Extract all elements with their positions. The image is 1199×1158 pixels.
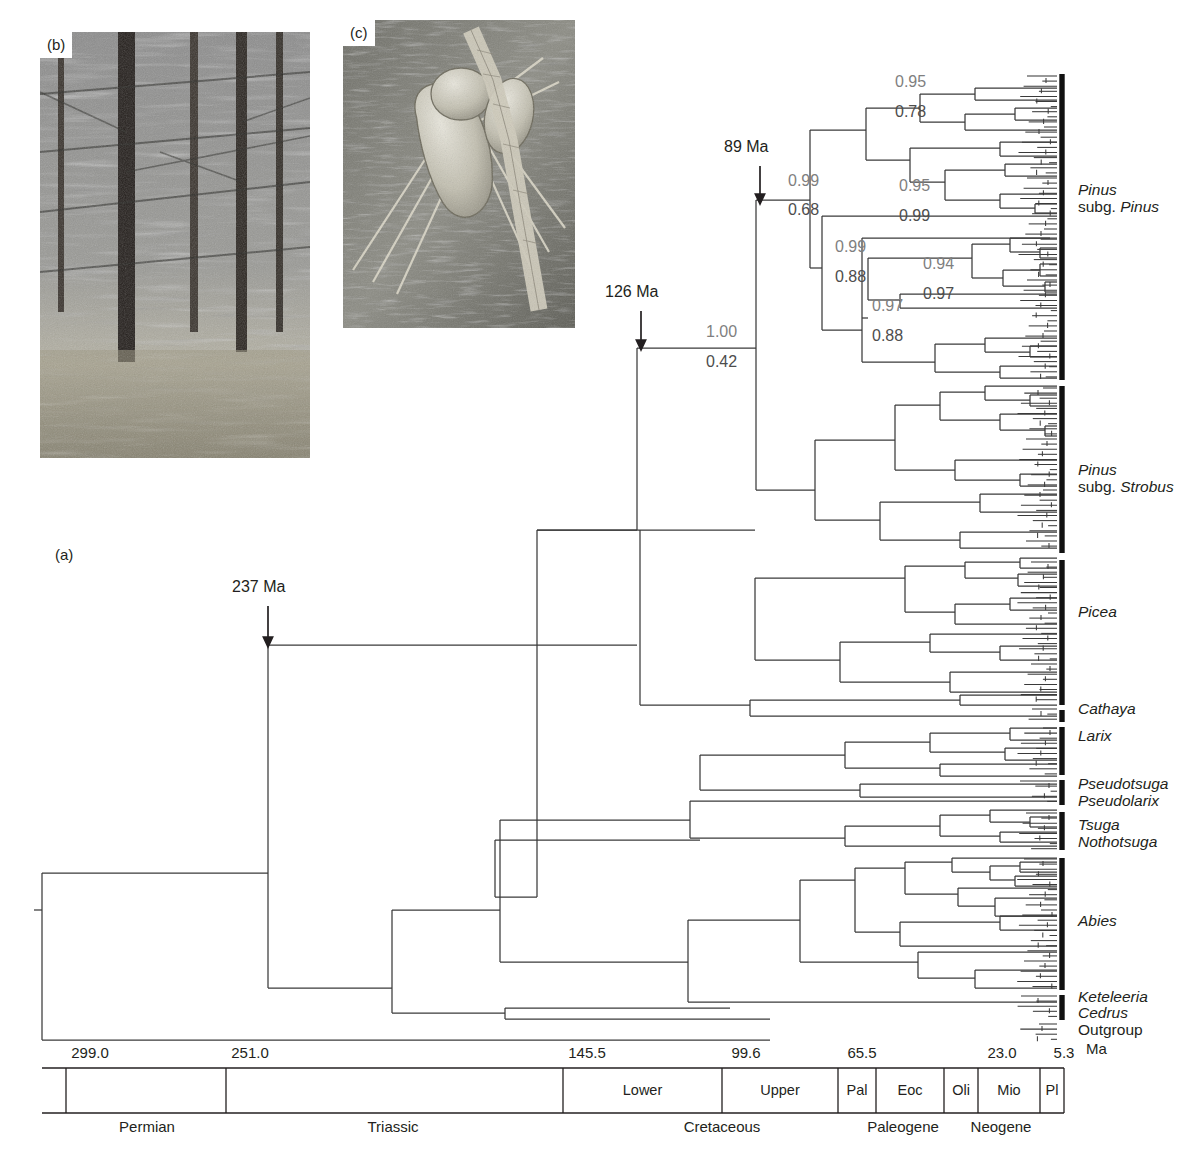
clade-label-line1: Pseudolarix bbox=[1078, 792, 1159, 809]
clade-label-cedrus: Cedrus bbox=[1078, 1004, 1128, 1021]
support-top-n-pinus-d: 0.94 bbox=[923, 255, 954, 273]
clade-label-pseudolarix: Pseudolarix bbox=[1078, 792, 1159, 809]
support-bottom-n-pinus-e: 0.88 bbox=[872, 327, 903, 345]
epoch-label-pal: Pal bbox=[847, 1082, 868, 1098]
epoch-label-oli: Oli bbox=[952, 1082, 970, 1098]
clade-label-line1: Outgroup bbox=[1078, 1021, 1143, 1038]
tick-label-99.6: 99.6 bbox=[731, 1044, 760, 1061]
clade-label-nothotsuga: Nothotsuga bbox=[1078, 833, 1157, 850]
period-label-cretaceous: Cretaceous bbox=[684, 1118, 761, 1135]
clade-label-tsuga: Tsuga bbox=[1078, 816, 1120, 833]
photo-c-image bbox=[343, 20, 575, 328]
support-top-n-pinus-a: 0.95 bbox=[895, 73, 926, 91]
support-top-n-pinus-c: 0.99 bbox=[835, 238, 866, 256]
clade-label-line1: Pseudotsuga bbox=[1078, 775, 1169, 792]
terminal-tips bbox=[1017, 76, 1057, 1041]
photo-b-caption: (b) bbox=[40, 32, 72, 58]
tick-label-251.0: 251.0 bbox=[231, 1044, 269, 1061]
epoch-label-lower: Lower bbox=[623, 1082, 663, 1098]
clade-label-line1: Abies bbox=[1078, 912, 1117, 929]
clade-label-line1: Picea bbox=[1078, 603, 1117, 620]
epoch-label-upper: Upper bbox=[760, 1082, 800, 1098]
callout-divergence-89: 89 Ma bbox=[724, 138, 768, 156]
photo-c-caption: (c) bbox=[343, 20, 375, 46]
photo-panel-c: (c) bbox=[343, 20, 575, 328]
support-top-n-root-pinus: 1.00 bbox=[706, 323, 737, 341]
support-top-n-subg-pinus: 0.99 bbox=[788, 172, 819, 190]
tick-label-23.0: 23.0 bbox=[987, 1044, 1016, 1061]
support-top-n-pinus-b: 0.95 bbox=[899, 177, 930, 195]
support-bottom-n-pinus-b: 0.99 bbox=[899, 207, 930, 225]
photo-b-image bbox=[40, 32, 310, 458]
clade-label-larix: Larix bbox=[1078, 727, 1112, 744]
clade-label-line1: Pinus bbox=[1078, 461, 1174, 478]
support-bottom-n-subg-pinus: 0.68 bbox=[788, 201, 819, 219]
clade-label-line1: Cedrus bbox=[1078, 1004, 1128, 1021]
axis-unit-label: Ma bbox=[1086, 1040, 1107, 1057]
photo-panel-b: (b) bbox=[40, 32, 310, 458]
support-bottom-n-pinus-a: 0.78 bbox=[895, 103, 926, 121]
figure-root: (b) bbox=[0, 0, 1199, 1158]
callout-divergence-237: 237 Ma bbox=[232, 578, 285, 596]
clade-label-line1: Tsuga bbox=[1078, 816, 1120, 833]
period-label-neogene: Neogene bbox=[971, 1118, 1032, 1135]
clade-label-picea: Picea bbox=[1078, 603, 1117, 620]
epoch-label-eoc: Eoc bbox=[898, 1082, 923, 1098]
clade-label-pseudotsuga: Pseudotsuga bbox=[1078, 775, 1169, 792]
clade-label-keteleeria: Keteleeria bbox=[1078, 988, 1148, 1005]
support-bottom-n-pinus-c: 0.88 bbox=[835, 268, 866, 286]
clade-label-line1: Pinus bbox=[1078, 181, 1159, 198]
clade-label-line1: Larix bbox=[1078, 727, 1112, 744]
tick-label-5.3: 5.3 bbox=[1054, 1044, 1075, 1061]
tick-label-65.5: 65.5 bbox=[847, 1044, 876, 1061]
clade-label-line1: Keteleeria bbox=[1078, 988, 1148, 1005]
period-label-paleogene: Paleogene bbox=[867, 1118, 939, 1135]
tick-label-145.5: 145.5 bbox=[568, 1044, 606, 1061]
clade-label-cathaya: Cathaya bbox=[1078, 700, 1136, 717]
clade-label-pinus-subg-pinus: Pinussubg. Pinus bbox=[1078, 181, 1159, 215]
clade-label-line1: Cathaya bbox=[1078, 700, 1136, 717]
epoch-label-pl: Pl bbox=[1046, 1082, 1059, 1098]
clade-label-line2: subg. Strobus bbox=[1078, 478, 1174, 495]
period-label-permian: Permian bbox=[119, 1118, 175, 1135]
support-top-n-pinus-e: 0.97 bbox=[872, 297, 903, 315]
clade-label-line2: subg. Pinus bbox=[1078, 198, 1159, 215]
period-label-triassic: Triassic bbox=[367, 1118, 418, 1135]
panel-a-caption: (a) bbox=[55, 546, 73, 563]
clade-label-line1: Nothotsuga bbox=[1078, 833, 1157, 850]
clade-label-pinus-subg-strobus: Pinussubg. Strobus bbox=[1078, 461, 1174, 495]
support-bottom-n-pinus-d: 0.97 bbox=[923, 285, 954, 303]
support-bottom-n-root-pinus: 0.42 bbox=[706, 353, 737, 371]
epoch-label-mio: Mio bbox=[997, 1082, 1020, 1098]
clade-label-abies: Abies bbox=[1078, 912, 1117, 929]
clade-label-outgroup: Outgroup bbox=[1078, 1021, 1143, 1038]
tick-label-299.0: 299.0 bbox=[71, 1044, 109, 1061]
callout-divergence-126: 126 Ma bbox=[605, 283, 658, 301]
